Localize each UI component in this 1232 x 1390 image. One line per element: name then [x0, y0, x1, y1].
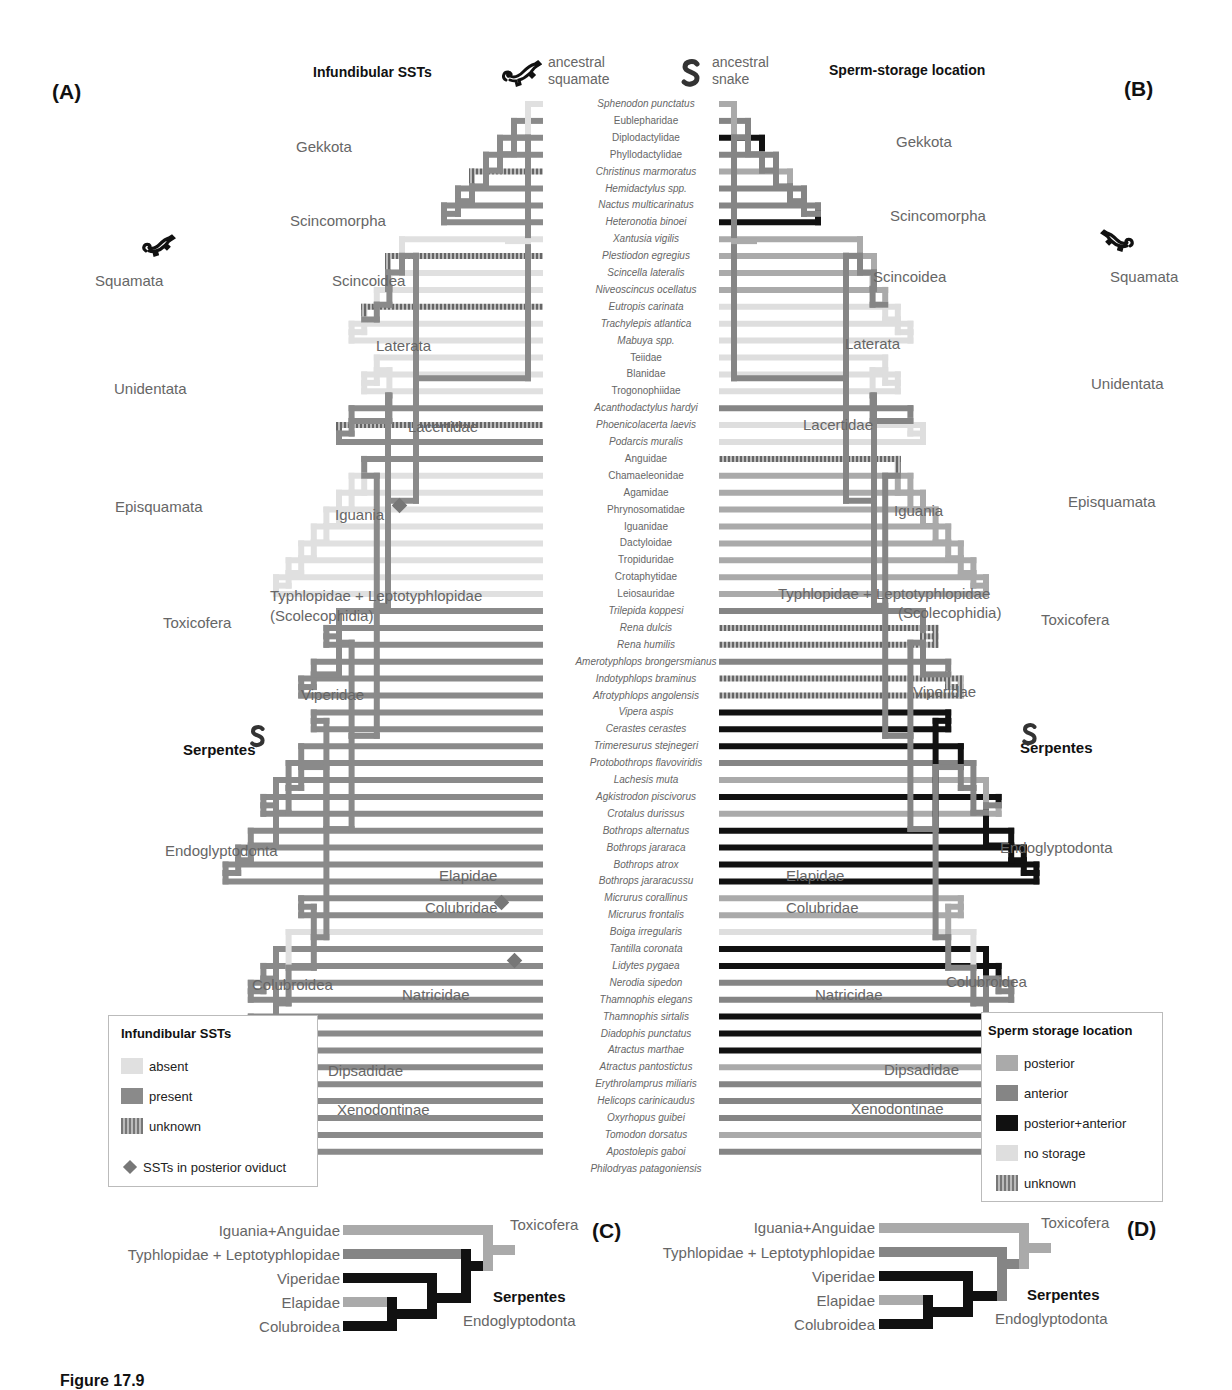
clade-label: Viperidae: [913, 683, 976, 700]
swatch-posterior-anterior: [996, 1115, 1018, 1131]
tip-label: Teiidae: [561, 352, 731, 364]
c-taxon-viperidae: Viperidae: [277, 1270, 340, 1287]
clade-label: Iguania: [335, 506, 384, 523]
tip-label: Amerotyphlops brongersmianus: [561, 656, 731, 668]
clade-label: (Scolecophidia): [898, 604, 1001, 621]
legend-a-item-absent: absent: [121, 1058, 188, 1074]
tip-label: Trogonophiidae: [561, 385, 731, 397]
tip-label: Trachylepis atlantica: [561, 318, 731, 330]
clade-label: Lacertidae: [803, 416, 873, 433]
tip-label: Sphenodon punctatus: [561, 98, 731, 110]
clade-label: Laterata: [376, 337, 431, 354]
tip-label: Dactyloidae: [561, 537, 731, 549]
tip-label: Niveoscincus ocellatus: [561, 284, 731, 296]
d-taxon-colubroidea: Colubroidea: [794, 1316, 875, 1333]
c-taxon-scolecophidia: Typhlopidae + Leptotyphlopidae: [128, 1246, 340, 1263]
clade-label: Gekkota: [296, 138, 352, 155]
clade-label: Iguania: [894, 502, 943, 519]
swatch-unknown-b: [996, 1175, 1018, 1191]
d-label-serpentes: Serpentes: [1027, 1286, 1100, 1303]
tip-label: Oxyrhopus guibei: [561, 1112, 731, 1124]
legend-b-item-no-storage: no storage: [996, 1145, 1085, 1161]
tip-label: Trimeresurus stejnegeri: [561, 740, 731, 752]
clade-label: Colubridae: [425, 899, 498, 916]
tip-label: Atractus pantostictus: [561, 1061, 731, 1073]
tip-label: Micrurus frontalis: [561, 909, 731, 921]
tip-label: Agkistrodon piscivorus: [561, 791, 731, 803]
clade-label: Unidentata: [1091, 375, 1164, 392]
tip-label: Lachesis muta: [561, 774, 731, 786]
clade-label: Scincoidea: [873, 268, 946, 285]
ancestral-snake-label: ancestralsnake: [712, 54, 769, 88]
clade-label: Colubroidea: [946, 973, 1027, 990]
d-taxon-iguania-anguidae: Iguania+Anguidae: [754, 1219, 875, 1236]
tip-label: Agamidae: [561, 487, 731, 499]
tip-label: Trilepida koppesi: [561, 605, 731, 617]
tip-label: Leiosauridae: [561, 588, 731, 600]
tip-label: Xantusia vigilis: [561, 233, 731, 245]
legend-a-title: Infundibular SSTs: [121, 1026, 231, 1041]
tip-label: Apostolepis gaboi: [561, 1146, 731, 1158]
tip-label: Rena dulcis: [561, 622, 731, 634]
clade-label: Squamata: [95, 272, 163, 289]
tip-label: Protobothrops flavoviridis: [561, 757, 731, 769]
tip-label: Atractus marthae: [561, 1044, 731, 1056]
clade-label: Scincomorpha: [890, 207, 986, 224]
panel-a-title: Infundibular SSTs: [313, 64, 432, 80]
c-label-serpentes: Serpentes: [493, 1288, 566, 1305]
tip-label: Tropiduridae: [561, 554, 731, 566]
tip-label: Mabuya spp.: [561, 335, 731, 347]
c-taxon-iguania-anguidae: Iguania+Anguidae: [219, 1222, 340, 1239]
legend-infundibular-ssts: Infundibular SSTs absent present unknown…: [108, 1015, 318, 1187]
clade-label: Colubridae: [786, 899, 859, 916]
clade-label: Elapidae: [439, 867, 497, 884]
diamond-icon: [123, 1160, 137, 1174]
tip-label: Anguidae: [561, 453, 731, 465]
clade-label: Elapidae: [786, 867, 844, 884]
tip-label: Christinus marmoratus: [561, 166, 731, 178]
swatch-posterior: [996, 1055, 1018, 1071]
tip-label: Cerastes cerastes: [561, 723, 731, 735]
tip-label: Indotyphlops braminus: [561, 673, 731, 685]
tip-label: Rena humilis: [561, 639, 731, 651]
c-taxon-colubroidea: Colubroidea: [259, 1318, 340, 1335]
tip-label: Afrotyphlops angolensis: [561, 690, 731, 702]
tip-label: Bothrops jararacussu: [561, 875, 731, 887]
ancestral-squamate-label: ancestralsquamate: [548, 54, 609, 88]
clade-label: Typhlopidae + Leptotyphlopidae: [270, 587, 482, 604]
tip-label: Eublepharidae: [561, 115, 731, 127]
swatch-unknown: [121, 1118, 143, 1134]
clade-label: Natricidae: [815, 986, 883, 1003]
clade-label: Toxicofera: [163, 614, 231, 631]
clade-label: Unidentata: [114, 380, 187, 397]
tip-label: Blanidae: [561, 368, 731, 380]
figure-caption: Figure 17.9: [60, 1372, 144, 1390]
clade-label: Endoglyptodonta: [165, 842, 278, 859]
clade-label: Dipsadidae: [328, 1062, 403, 1079]
tip-label: Phrynosomatidae: [561, 504, 731, 516]
legend-b-item-posterior: posterior: [996, 1055, 1075, 1071]
tip-label: Eutropis carinata: [561, 301, 731, 313]
clade-label: Squamata: [1110, 268, 1178, 285]
tip-label: Phoenicolacerta laevis: [561, 419, 731, 431]
legend-b-item-unknown: unknown: [996, 1175, 1076, 1191]
tip-label: Lidytes pygaea: [561, 960, 731, 972]
d-taxon-viperidae: Viperidae: [812, 1268, 875, 1285]
clade-label: Laterata: [845, 335, 900, 352]
swatch-present: [121, 1088, 143, 1104]
tip-label: Acanthodactylus hardyi: [561, 402, 731, 414]
panel-d-letter: (D): [1127, 1217, 1156, 1241]
c-taxon-elapidae: Elapidae: [282, 1294, 340, 1311]
tip-label: Nactus multicarinatus: [561, 199, 731, 211]
clade-label: Viperidae: [301, 686, 364, 703]
tip-label: Nerodia sipedon: [561, 977, 731, 989]
tip-label: Erythrolamprus miliaris: [561, 1078, 731, 1090]
clade-label: Xenodontinae: [851, 1100, 944, 1117]
legend-a-note: SSTs in posterior oviduct: [121, 1159, 286, 1175]
c-label-toxicofera: Toxicofera: [510, 1216, 578, 1233]
clade-label: Xenodontinae: [337, 1101, 430, 1118]
d-taxon-elapidae: Elapidae: [817, 1292, 875, 1309]
tip-label: Podarcis muralis: [561, 436, 731, 448]
tip-label: Diplodactylidae: [561, 132, 731, 144]
clade-label: Scincomorpha: [290, 212, 386, 229]
